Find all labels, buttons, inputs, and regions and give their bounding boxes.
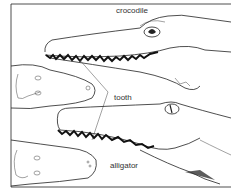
crocodile-head <box>45 15 231 89</box>
tooth-label: tooth <box>114 93 132 102</box>
crocodile-top-view <box>11 65 95 109</box>
alligator-teeth <box>58 130 154 148</box>
tooth-pointer-line <box>78 58 108 140</box>
alligator-top-view <box>11 140 96 186</box>
alligator-head <box>57 102 231 184</box>
alligator-label: alligator <box>110 161 138 170</box>
crocodile-label: crocodile <box>116 6 149 15</box>
crocodile-alligator-diagram: crocodile tooth alligator <box>0 0 231 195</box>
